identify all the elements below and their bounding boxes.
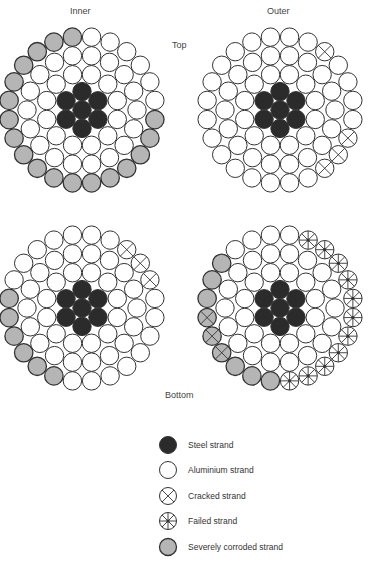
steel-strand xyxy=(287,290,305,308)
aluminium-strand xyxy=(124,280,142,298)
aluminium-strand xyxy=(45,231,63,249)
corroded-strand xyxy=(0,110,18,128)
aluminium-strand xyxy=(82,245,100,263)
corroded-strand xyxy=(212,254,230,272)
aluminium-strand xyxy=(45,251,63,269)
aluminium-strand xyxy=(243,231,261,249)
aluminium-strand xyxy=(131,344,149,362)
aluminium-strand xyxy=(306,91,324,109)
corroded-strand xyxy=(160,538,177,555)
aluminium-strand xyxy=(245,325,263,343)
aluminium-strand xyxy=(131,56,149,74)
aluminium-strand xyxy=(45,53,63,71)
aluminium-strand xyxy=(100,53,118,71)
aluminium-strand xyxy=(280,136,298,154)
aluminium-strand xyxy=(226,240,244,258)
aluminium-strand xyxy=(124,318,142,336)
aluminium-strand xyxy=(108,308,126,326)
aluminium-strand xyxy=(298,251,316,269)
legend-item-failed: Failed strand xyxy=(158,509,283,535)
cracked-strand-icon xyxy=(158,486,178,506)
aluminium-strand xyxy=(339,73,357,91)
aluminium-strand xyxy=(31,263,49,281)
steel-strand xyxy=(57,92,75,110)
aluminium-strand xyxy=(82,155,100,173)
aluminium-strand xyxy=(38,308,56,326)
steel-strand xyxy=(57,308,75,326)
aluminium-strand xyxy=(141,327,159,345)
aluminium-strand xyxy=(63,66,81,84)
aluminium-strand xyxy=(322,318,340,336)
steel-strand xyxy=(271,317,289,335)
cracked-strand xyxy=(118,240,136,258)
aluminium-strand xyxy=(261,264,279,282)
corroded-strand xyxy=(5,327,23,345)
aluminium-strand xyxy=(313,65,331,83)
failed-strand xyxy=(160,513,177,530)
aluminium-strand xyxy=(82,226,100,244)
aluminium-strand xyxy=(313,263,331,281)
aluminium-strand xyxy=(313,136,331,154)
cracked-strand xyxy=(316,159,334,177)
corroded-strand xyxy=(28,42,46,60)
aluminium-strand xyxy=(82,136,100,154)
corroded-strand xyxy=(261,372,279,390)
aluminium-strand xyxy=(82,66,100,84)
conductor-inner-top xyxy=(0,28,164,192)
aluminium-strand xyxy=(298,148,316,166)
corroded-strand xyxy=(141,129,159,147)
aluminium-strand xyxy=(31,334,49,352)
aluminium-strand xyxy=(229,65,247,83)
aluminium-strand xyxy=(31,65,49,83)
aluminium-strand xyxy=(203,129,221,147)
steel-strand xyxy=(89,290,107,308)
aluminium-strand xyxy=(63,47,81,65)
corroded-strand xyxy=(0,91,18,109)
aluminium-strand xyxy=(280,174,298,192)
aluminium-strand xyxy=(236,289,254,307)
aluminium-strand xyxy=(306,110,324,128)
legend-item-cracked: Cracked strand xyxy=(158,483,283,509)
steel-strand xyxy=(287,92,305,110)
aluminium-strand xyxy=(322,82,340,100)
aluminium-strand xyxy=(124,120,142,138)
aluminium-strand xyxy=(21,280,39,298)
aluminium-strand xyxy=(306,308,324,326)
aluminium-strand xyxy=(261,28,279,46)
aluminium-strand xyxy=(108,110,126,128)
aluminium-strand xyxy=(280,353,298,371)
aluminium-strand xyxy=(261,245,279,263)
aluminium-strand xyxy=(226,159,244,177)
aluminium-strand xyxy=(82,353,100,371)
aluminium-strand xyxy=(18,299,36,317)
aluminium-strand xyxy=(146,289,164,307)
aluminium-strand xyxy=(115,65,133,83)
aluminium-strand xyxy=(45,346,63,364)
conductor-outer-bottom xyxy=(198,226,362,390)
conductor-cross-sections xyxy=(0,0,370,420)
aluminium-strand xyxy=(344,110,362,128)
steel-strand xyxy=(255,290,273,308)
cracked-strand xyxy=(131,254,149,272)
aluminium-strand xyxy=(297,127,315,145)
aluminium-strand xyxy=(146,308,164,326)
aluminium-strand xyxy=(280,334,298,352)
steel-strand xyxy=(73,299,91,317)
legend-item-corroded: Severely corroded strand xyxy=(158,534,283,560)
legend-item-aluminium: Aluminium strand xyxy=(158,458,283,484)
steel-strand xyxy=(271,101,289,119)
aluminium-strand xyxy=(313,334,331,352)
aluminium-strand xyxy=(99,273,117,291)
cracked-strand xyxy=(316,42,334,60)
failed-strand xyxy=(299,367,317,385)
steel-strand xyxy=(160,436,177,453)
corroded-strand xyxy=(14,146,32,164)
aluminium-strand xyxy=(160,462,177,479)
aluminium-strand xyxy=(280,66,298,84)
steel-strand xyxy=(73,101,91,119)
aluminium-strand xyxy=(21,82,39,100)
aluminium-strand xyxy=(115,334,133,352)
failed-strand xyxy=(316,240,334,258)
aluminium-strand xyxy=(45,148,63,166)
failed-strand xyxy=(339,271,357,289)
